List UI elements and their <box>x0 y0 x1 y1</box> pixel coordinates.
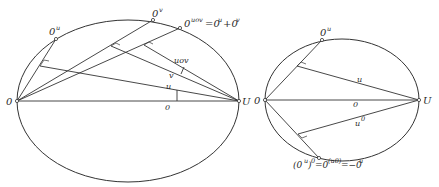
point-unit-left <box>237 99 240 102</box>
label-ou-left: 0 u <box>49 24 60 37</box>
label-origin-right: 0 <box>254 95 261 106</box>
point-ou-left <box>54 37 57 40</box>
label-segment-v: v <box>169 71 174 80</box>
svg-text:0: 0 <box>49 26 56 37</box>
svg-text:0: 0 <box>184 18 191 29</box>
left-figure: 0 U 0 u 0 v 0 uov =0 u +0 v u v uov 0 <box>6 6 251 182</box>
label-unit-right: U <box>423 95 432 106</box>
svg-text:uov: uov <box>191 16 203 24</box>
line-o-bottom-right <box>265 100 319 158</box>
line-o-ou-right <box>265 40 322 100</box>
line-o-ouov <box>17 28 180 101</box>
label-segment-u-left: u <box>166 82 171 91</box>
diagram-canvas: 0 U 0 u 0 v 0 uov =0 u +0 v u v uov 0 <box>0 0 439 187</box>
svg-text:v: v <box>236 16 240 24</box>
point-origin-left <box>15 99 18 102</box>
svg-text:0: 0 <box>152 8 159 19</box>
line-u-foot-lower <box>298 100 419 134</box>
label-segment-uov: uov <box>174 56 189 65</box>
svg-text:0: 0 <box>320 27 327 38</box>
svg-text:0: 0 <box>361 115 365 123</box>
label-ou-right: 0 u <box>320 25 331 38</box>
svg-text:u: u <box>218 16 222 24</box>
point-unit-right <box>417 98 420 101</box>
label-segment-u0: u 0 <box>355 115 365 128</box>
svg-text:u: u <box>355 119 360 128</box>
line-u-foot-v <box>111 46 239 101</box>
svg-text:(0: (0 <box>293 160 303 170</box>
label-ouov: 0 uov =0 u +0 v <box>184 16 240 29</box>
svg-text:=0: =0 <box>315 160 329 170</box>
svg-text:u: u <box>327 25 331 33</box>
point-ou-right <box>320 38 323 41</box>
line-o-ou <box>17 39 56 101</box>
label-zero-left: 0 <box>165 103 170 112</box>
svg-text:u: u <box>56 24 60 32</box>
svg-text:(u0): (u0) <box>328 157 342 165</box>
label-bottom-right: (0 u ) 0 =0 (u0) =−0 u <box>293 157 363 170</box>
label-unit-left: U <box>242 96 251 107</box>
label-zero-right: 0 <box>353 100 358 109</box>
label-origin-left: 0 <box>6 96 13 107</box>
line-o-ov <box>17 20 153 101</box>
point-ouov <box>178 26 181 29</box>
point-origin-right <box>263 98 266 101</box>
svg-text:v: v <box>159 6 163 14</box>
label-ov: 0 v <box>152 6 163 19</box>
svg-text:u: u <box>359 157 363 165</box>
label-segment-u-right: u <box>357 75 362 84</box>
right-figure: 0 U 0 u (0 u ) 0 =0 (u0) =−0 u u u 0 0 <box>254 25 432 170</box>
